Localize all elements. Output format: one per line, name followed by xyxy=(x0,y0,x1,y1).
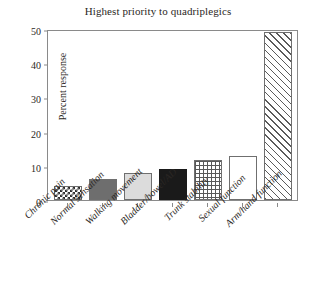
y-tick-20: 20 xyxy=(31,128,48,139)
x-tick-mark xyxy=(277,203,278,207)
bar-chart: Highest priority to quadriplegics Percen… xyxy=(0,0,316,293)
y-tick-40: 40 xyxy=(31,60,48,71)
y-tick-50: 50 xyxy=(31,26,48,37)
y-tick-label: 40 xyxy=(31,60,44,71)
y-tick-label: 20 xyxy=(31,128,44,139)
y-tick-10: 10 xyxy=(31,162,48,173)
x-axis-labels: Chronic pain Normal sensation Walking mo… xyxy=(0,203,316,293)
y-tick-30: 30 xyxy=(31,94,48,105)
y-tick-label: 30 xyxy=(31,94,44,105)
chart-title: Highest priority to quadriplegics xyxy=(0,5,316,17)
y-tick-label: 10 xyxy=(31,162,44,173)
y-tick-label: 50 xyxy=(31,26,44,37)
